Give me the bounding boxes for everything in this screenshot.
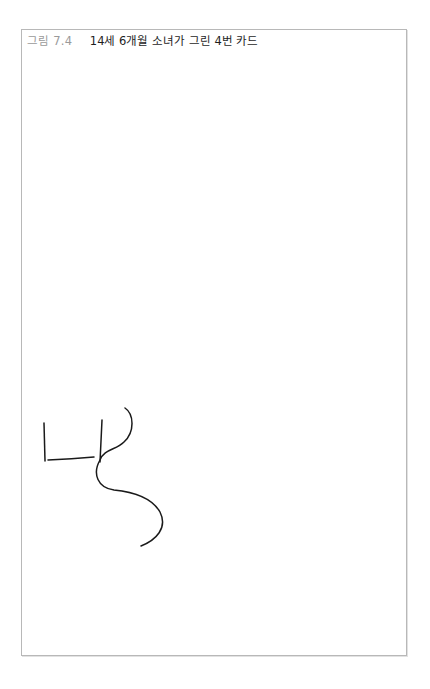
stroke-horizontal bbox=[48, 457, 94, 460]
stroke-left-vertical bbox=[44, 423, 45, 461]
stroke-s-curve bbox=[96, 408, 162, 546]
hand-drawing bbox=[0, 0, 430, 689]
